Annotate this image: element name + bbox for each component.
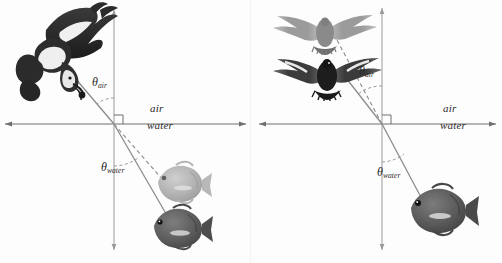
label-air-right: air [443, 102, 456, 114]
angle-arc-air-right [357, 86, 382, 95]
fish-apparent-image-left [158, 162, 212, 204]
axis-horizontal-left [5, 121, 246, 126]
theta-subscript: water [383, 171, 401, 180]
label-theta-air-right: θair [359, 64, 374, 79]
label-theta-water-left: θwater [101, 160, 125, 175]
theta-subscript: air [98, 81, 107, 90]
theta-subscript: water [107, 166, 125, 175]
axis-vertical-normal-left [112, 10, 117, 250]
right-panel-graphics [251, 0, 502, 263]
label-theta-air-left: θair [92, 75, 107, 90]
label-water-left: water [147, 119, 173, 131]
label-water-right: water [440, 119, 466, 131]
fish-real-left [154, 205, 213, 250]
bird-apparent-image-right [273, 15, 377, 55]
axis-vertical-normal-right [380, 8, 385, 250]
panel-fish-views-bird: air water θair θwater [251, 0, 502, 263]
figure-canvas: air water θair θwater [0, 0, 502, 263]
angle-arc-air-left [97, 98, 114, 104]
fish-real-right [411, 184, 479, 235]
label-theta-water-right: θwater [377, 165, 401, 180]
theta-subscript: air [365, 70, 374, 79]
label-air-left: air [150, 102, 163, 114]
panel-bird-views-fish: air water θair θwater [0, 0, 251, 263]
right-angle-marker-left [114, 115, 123, 124]
right-angle-marker-right [382, 115, 391, 124]
refracted-ray-water-right [382, 124, 423, 201]
left-panel-graphics [0, 0, 251, 263]
panel-divider [250, 0, 251, 263]
